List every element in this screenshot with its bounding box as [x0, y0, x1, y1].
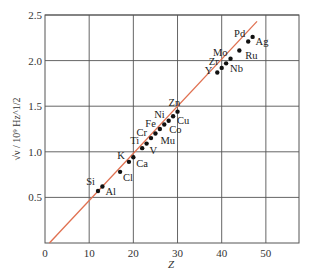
point-label-ag: Ag — [256, 36, 270, 47]
tick-labels: 010203040500.51.01.52.02.5 — [28, 9, 272, 259]
point-label-v: V — [150, 145, 158, 156]
point-label-mo: Mo — [213, 47, 228, 58]
point-label-y: Y — [205, 65, 213, 76]
point-label-cl: Cl — [123, 172, 133, 183]
y-axis-label: √ν / 10⁹ Hz^1/2 — [11, 98, 22, 161]
y-tick-label: 0.5 — [28, 191, 42, 203]
y-tick-label: 1.5 — [28, 100, 42, 112]
y-tick-label: 2.5 — [28, 9, 42, 21]
moseley-chart: AlSiClKCaTiVCrMuFeCoNiCuZnYZrNbMoRuPdAg … — [0, 0, 321, 280]
data-point-v — [144, 141, 148, 145]
data-point-co — [162, 122, 166, 126]
data-point-mu — [153, 131, 157, 135]
data-point-al — [100, 184, 104, 188]
data-point-ru — [237, 48, 241, 52]
point-label-al: Al — [105, 186, 116, 197]
x-tick-label: 50 — [260, 247, 272, 259]
point-label-mu: Mu — [160, 135, 175, 146]
data-point-zr — [219, 66, 223, 70]
y-tick-label: 2.0 — [28, 55, 42, 67]
point-label-k: K — [117, 150, 125, 161]
point-label-ni: Ni — [154, 109, 165, 120]
data-point-cl — [118, 170, 122, 174]
point-label-si: Si — [86, 176, 95, 187]
point-label-nb: Nb — [230, 63, 243, 74]
data-point-k — [127, 160, 131, 164]
data-point-y — [215, 70, 219, 74]
x-axis-label: Z — [168, 258, 175, 270]
data-point-mo — [228, 57, 232, 61]
x-tick-label: 0 — [42, 247, 48, 259]
x-tick-label: 40 — [216, 247, 228, 259]
point-label-ca: Ca — [136, 158, 148, 169]
data-point-pd — [246, 39, 250, 43]
data-point-ti — [140, 146, 144, 150]
data-point-cr — [149, 136, 153, 140]
x-tick-label: 10 — [84, 247, 96, 259]
point-label-cu: Cu — [177, 115, 190, 126]
data-point-cu — [171, 114, 175, 118]
point-label-ru: Ru — [245, 50, 258, 61]
data-point-zn — [175, 109, 179, 113]
data-point-fe — [158, 127, 162, 131]
point-label-pd: Pd — [234, 28, 246, 39]
x-tick-label: 20 — [128, 247, 140, 259]
data-point-si — [96, 189, 100, 193]
data-point-ca — [131, 155, 135, 159]
data-point-ag — [250, 35, 254, 39]
data-point-nb — [224, 61, 228, 65]
y-tick-label: 1.0 — [28, 146, 42, 158]
point-label-zn: Zn — [169, 97, 181, 108]
data-point-ni — [166, 119, 170, 123]
